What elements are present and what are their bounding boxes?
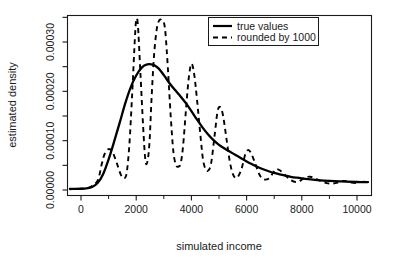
- y-tick-label: 0.00030: [44, 23, 56, 61]
- chart-background: [0, 0, 395, 264]
- y-axis-title: estimated density: [6, 62, 18, 148]
- y-tick-label: 0.00000: [44, 171, 56, 209]
- x-tick-label: 0: [78, 203, 84, 215]
- y-tick-label: 0.00020: [44, 72, 56, 110]
- x-tick-label: 4000: [180, 203, 204, 215]
- y-tick-label: 0.00010: [44, 122, 56, 160]
- x-tick-label: 8000: [290, 203, 314, 215]
- x-tick-label: 6000: [235, 203, 259, 215]
- density-chart-figure: 0.000000.000100.000200.00030 02000400060…: [0, 0, 395, 264]
- legend: true values rounded by 1000: [209, 18, 319, 46]
- x-tick-label: 10000: [342, 203, 371, 215]
- legend-label-true-values: true values: [237, 20, 288, 32]
- legend-label-rounded-by-1000: rounded by 1000: [237, 31, 316, 43]
- chart-canvas: 0.000000.000100.000200.00030 02000400060…: [0, 0, 395, 264]
- x-axis-title: simulated income: [176, 240, 262, 252]
- x-tick-label: 2000: [125, 203, 149, 215]
